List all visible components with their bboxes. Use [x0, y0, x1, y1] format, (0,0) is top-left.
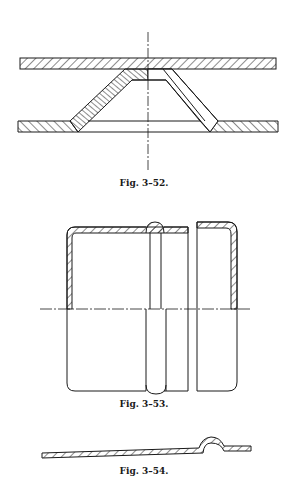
- left-wall: [70, 69, 148, 132]
- caption-fig-3-52: Fig. 3–52.: [0, 178, 288, 188]
- caption-fig-3-54: Fig. 3–54.: [0, 466, 288, 476]
- caption-fig-3-53: Fig. 3–53.: [0, 399, 288, 409]
- upper-plate: [20, 58, 276, 69]
- fig-3-52-drawing: [18, 32, 278, 170]
- fig-3-53-drawing: [40, 222, 252, 394]
- lower-plate-right: [210, 121, 278, 132]
- lower-plate-left: [18, 121, 78, 132]
- strip-with-bead: [42, 437, 251, 458]
- body-wall-hatch: [67, 227, 188, 309]
- fig-3-54-drawing: [42, 437, 251, 458]
- technical-drawings: [0, 0, 288, 486]
- cap-wall-hatch: [197, 222, 237, 309]
- bead: [146, 222, 164, 233]
